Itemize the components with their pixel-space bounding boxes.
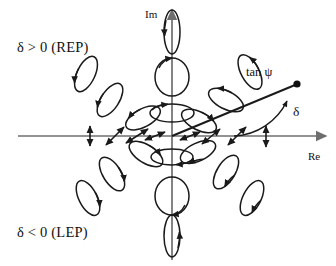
ellipse-group-lower-left — [71, 136, 167, 219]
vector-magnitude-label: tan ψ — [246, 66, 272, 79]
vector-angle-label: δ — [293, 105, 299, 119]
tan-psi-vector-line — [172, 85, 295, 136]
polarization-ellipse-lr-3 — [235, 177, 268, 219]
polarization-ellipse-ul-3 — [70, 53, 102, 95]
ellipse-group-upper-left — [70, 53, 164, 135]
polarization-ellipse-ll-1 — [125, 136, 167, 171]
polarization-ellipse-ll-3 — [71, 177, 104, 219]
polarization-ellipse-lr-2 — [208, 151, 243, 193]
axis-label-real: Re — [308, 151, 320, 162]
ellipse-group-upper-right — [178, 51, 267, 138]
polarization-ellipse-ul-2 — [92, 79, 128, 121]
region-label-rep: δ > 0 (REP) — [17, 40, 89, 55]
polarization-ellipse-ur-2 — [205, 83, 247, 116]
region-label-lep: δ < 0 (LEP) — [17, 225, 88, 240]
ellipse-group-lower-right — [177, 136, 269, 219]
tan-psi-endpoint-dot — [293, 80, 300, 87]
polarization-complex-plane-figure: δ > 0 (REP) δ < 0 (LEP) Im Re tan ψ δ — [0, 0, 336, 266]
axis-label-imaginary: Im — [145, 9, 157, 20]
polarization-ellipse-ll-2 — [94, 153, 129, 195]
